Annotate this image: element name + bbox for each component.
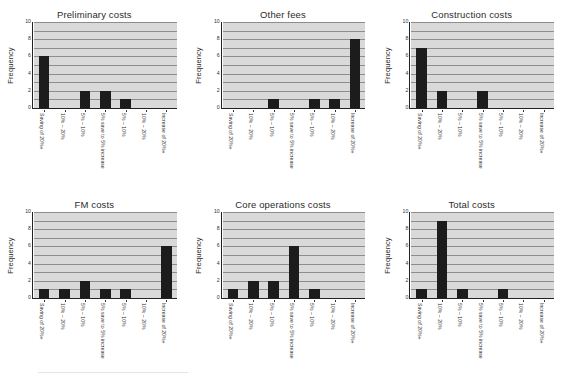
bar-slot [411,212,431,298]
chart-panel: Total costsFrequency0246810Saving of 20%… [377,190,566,380]
y-axis-label-text: Frequency [383,237,392,273]
bar-slot [54,22,74,108]
x-axis-tick-mark [44,110,45,112]
x-axis-tick-mark [233,110,234,112]
x-axis-tick-label: 5% – 10% [309,303,314,327]
bar-slot [513,22,533,108]
bar [161,246,172,298]
x-axis-line [221,108,366,109]
y-axis-label-text: Frequency [194,47,203,83]
x-axis-tick-label: 5% – 10% [121,303,126,327]
y-axis-label-text: Frequency [383,47,392,83]
x-axis-tick: 5% – 10% [75,300,95,362]
footer-rule [38,372,188,373]
bar [437,221,448,298]
x-axis-tick: 5% – 10% [116,110,136,172]
bar-slot [452,212,472,298]
x-axis-tick-label: Saving of 20%+ [228,303,233,340]
y-axis-tick-label: 4 [15,261,31,266]
x-axis-tick: Saving of 20%+ [411,110,431,172]
x-axis-line [32,108,177,109]
x-axis-tick-label: 5% – 10% [498,303,503,327]
y-axis-tick-label: 4 [392,71,408,76]
x-axis-tick-mark [105,300,106,302]
x-axis-tick-mark [274,110,275,112]
x-axis-tick: 5% – 10% [263,300,283,362]
x-axis-tick-mark [294,300,295,302]
x-axis-tick: 5% save to 5% increase [95,300,115,362]
y-axis-tick-label: 0 [204,295,220,300]
chart-panel: Construction costsFrequency0246810Saving… [377,0,566,190]
plot-area: Frequency0246810Saving of 20%+10% – 20%5… [411,212,554,298]
y-axis-tick-label: 8 [392,227,408,232]
x-axis-tick-mark [65,300,66,302]
plot-background [34,22,177,108]
y-axis-label-text: Frequency [194,237,203,273]
bar-slot [34,212,54,298]
x-axis-tick-label: 5% – 10% [269,113,274,137]
y-axis-tick-label: 2 [15,88,31,93]
x-axis-tick-label: 5% – 10% [309,113,314,137]
x-axis-tick-label: Saving of 20%+ [39,303,44,340]
bar-slot [472,212,492,298]
y-axis-tick-label: 6 [204,244,220,249]
y-axis-tick-label: 10 [204,19,220,24]
x-axis-tick-label: Increase of 20%+ [161,113,166,154]
x-axis-tick-mark [314,300,315,302]
y-axis-tick-label: 0 [15,295,31,300]
y-axis-ticks: 0246810 [204,212,220,298]
x-axis-tick-label: 10% – 20% [518,113,523,140]
x-axis-labels: Saving of 20%+10% – 20%5% – 10%5% save t… [223,300,366,362]
x-axis-tick: Increase of 20%+ [345,300,365,362]
y-axis-tick-label: 4 [392,261,408,266]
bar [477,91,488,108]
x-axis-tick: 5% – 10% [263,110,283,172]
bar [100,289,111,298]
x-axis-tick-mark [294,110,295,112]
x-axis-tick: Increase of 20%+ [345,110,365,172]
x-axis-tick: 10% – 20% [432,300,452,362]
y-axis-tick-label: 2 [15,278,31,283]
bar-slot [156,212,176,298]
bar [80,281,91,298]
x-axis-tick-mark [233,300,234,302]
x-axis-labels: Saving of 20%+10% – 20%5% – 10%5% save t… [223,110,366,172]
plot-area: Frequency0246810Saving of 20%+10% – 20%5… [34,22,177,108]
x-axis-tick: 10% – 20% [513,110,533,172]
y-axis-line [221,22,222,109]
plot-background [411,22,554,108]
bar-series [223,22,366,108]
x-axis-tick: 5% save to 5% increase [284,110,304,172]
x-axis-tick-label: 5% – 10% [121,113,126,137]
x-axis-tick-mark [146,300,147,302]
bar [437,91,448,108]
bar-slot [304,22,324,108]
x-axis-tick-mark [422,110,423,112]
x-axis-tick: 10% – 20% [513,300,533,362]
y-axis-tick-label: 2 [204,88,220,93]
x-axis-tick-label: 10% – 20% [248,113,253,140]
x-axis-tick-mark [166,110,167,112]
x-axis-tick-mark [126,110,127,112]
x-axis-tick-label: 10% – 20% [518,303,523,330]
x-axis-tick: 5% save to 5% increase [95,110,115,172]
plot-area: Frequency0246810Saving of 20%+10% – 20%5… [223,22,366,108]
bar-slot [432,212,452,298]
bar-slot [34,22,54,108]
plot-background [223,212,366,298]
x-axis-tick: Saving of 20%+ [223,110,243,172]
plot-area: Frequency0246810Saving of 20%+10% – 20%5… [411,22,554,108]
bar [416,48,427,108]
bar-series [223,212,366,298]
x-axis-tick-mark [335,110,336,112]
x-axis-tick-label: 10% – 20% [330,303,335,330]
x-axis-line [409,108,554,109]
bar-slot [223,22,243,108]
bar [416,289,427,298]
bar [268,281,279,298]
x-axis-tick-mark [462,300,463,302]
x-axis-tick-label: Increase of 20%+ [539,113,544,154]
bar-slot [75,22,95,108]
bar-slot [345,22,365,108]
x-axis-tick: 10% – 20% [243,110,263,172]
